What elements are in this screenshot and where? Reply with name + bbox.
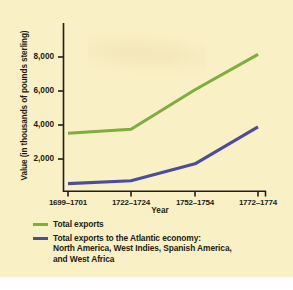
legend-swatch-green-icon	[33, 223, 48, 226]
y-axis-title: Value (in thousands of pounds sterling)	[20, 21, 29, 191]
legend-label-atlantic-economy: Total exports to the Atlantic economy: N…	[53, 233, 232, 265]
legend-swatch-blue-icon	[33, 237, 48, 240]
legend-label-line-3: and West Africa	[53, 254, 114, 264]
line-series-total-exports	[68, 54, 258, 133]
chart-figure: 8,000 6,000 4,000 2,000 1699–1701 1722–1…	[0, 0, 293, 290]
legend-label-line-1: Total exports to the Atlantic economy:	[53, 233, 201, 243]
y-axis-ticks	[58, 57, 64, 159]
legend-label-total-exports: Total exports	[53, 219, 104, 230]
legend-item-total-exports: Total exports	[33, 219, 283, 230]
legend-item-atlantic-economy: Total exports to the Atlantic economy: N…	[33, 233, 283, 265]
line-series-atlantic-economy	[68, 127, 258, 184]
x-axis-title: Year	[60, 206, 260, 215]
chart-legend: Total exports Total exports to the Atlan…	[33, 219, 283, 267]
legend-label-line-2: North America, West Indies, Spanish Amer…	[53, 243, 232, 253]
